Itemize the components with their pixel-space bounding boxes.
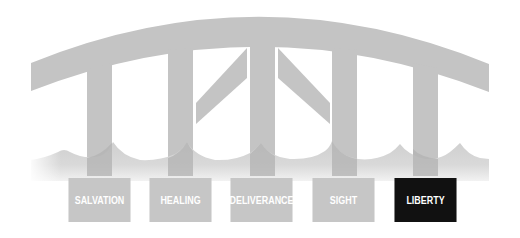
label-liberty: LIBERTY	[394, 178, 456, 222]
label-deliverance: DELIVERANCE	[230, 178, 292, 222]
strut-right	[278, 48, 330, 124]
label-deliverance-text: DELIVERANCE	[230, 194, 294, 206]
label-healing: HEALING	[149, 178, 211, 222]
label-sight-text: SIGHT	[330, 194, 357, 206]
label-healing-text: HEALING	[160, 194, 200, 206]
label-salvation: SALVATION	[68, 178, 130, 222]
strut-left	[196, 48, 247, 124]
label-liberty-text: LIBERTY	[406, 194, 444, 206]
label-sight: SIGHT	[312, 178, 374, 222]
label-salvation-text: SALVATION	[75, 194, 125, 206]
